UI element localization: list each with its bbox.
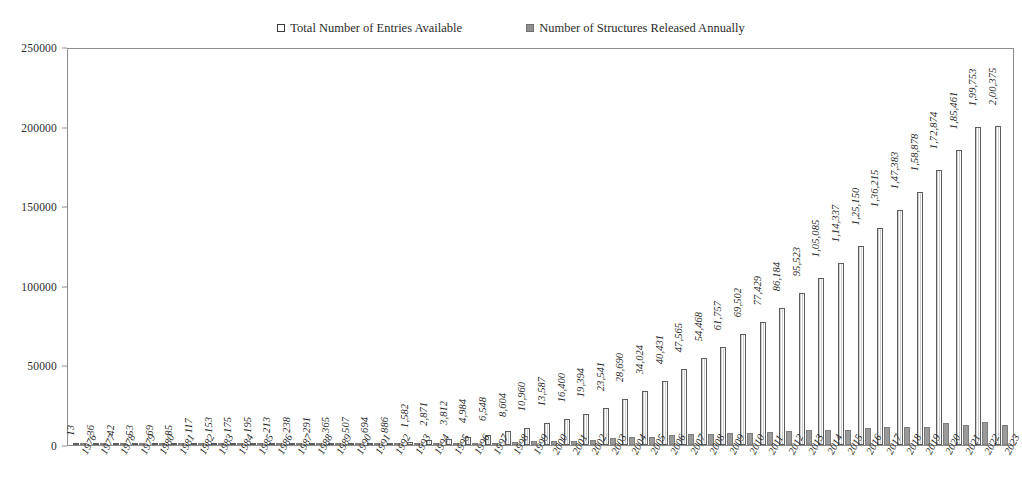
x-axis-tick: 1983 — [206, 447, 226, 490]
bar-group: 507 — [345, 49, 365, 445]
bar-group: 69,502 — [737, 49, 757, 445]
x-axis-tick: 2017 — [874, 447, 894, 490]
bar-total-entries: 1,58,878 — [917, 192, 923, 445]
x-axis-tick: 1976 — [69, 447, 89, 490]
bar-group: 28,690 — [619, 49, 639, 445]
bar-group: 19,394 — [580, 49, 600, 445]
legend-label-total: Total Number of Entries Available — [290, 21, 462, 36]
bar-group: 195 — [246, 49, 266, 445]
legend-swatch-annual-icon — [526, 24, 534, 32]
bar-group: 34,024 — [639, 49, 659, 445]
bar-group: 213 — [266, 49, 286, 445]
bar-group: 86,184 — [776, 49, 796, 445]
x-axis-tick: 1996 — [462, 447, 482, 490]
bar-group: 40,431 — [658, 49, 678, 445]
x-axis-tick: 1998 — [501, 447, 521, 490]
bar-group: 1,14,337 — [835, 49, 855, 445]
x-axis-tick: 2004 — [619, 447, 639, 490]
bar-total-entries: 1,47,383 — [897, 210, 903, 445]
bar-group: 694 — [364, 49, 384, 445]
x-axis-tick: 2015 — [835, 447, 855, 490]
bar-total-entries: 1,05,085 — [818, 278, 824, 445]
bar-total-entries: 1,36,215 — [877, 228, 883, 445]
x-axis-tick: 2001 — [560, 447, 580, 490]
x-axis-tick: 2022 — [972, 447, 992, 490]
y-axis-tick-label: 200000 — [21, 122, 57, 134]
bar-group: 291 — [305, 49, 325, 445]
x-axis-tick: 2014 — [815, 447, 835, 490]
bar-group: 1,99,753 — [972, 49, 992, 445]
x-axis-tick: 1994 — [423, 447, 443, 490]
bar-group: 1,36,215 — [874, 49, 894, 445]
bar-total-entries: 95,523 — [799, 293, 805, 445]
x-axis-tick: 2012 — [776, 447, 796, 490]
bar-group: 886 — [384, 49, 404, 445]
x-axis: 1976197719781979198019811982198319841985… — [67, 447, 1014, 490]
bar-group: 6,548 — [482, 49, 502, 445]
x-axis-tick: 1990 — [344, 447, 364, 490]
bar-group: 8,604 — [501, 49, 521, 445]
x-axis-tick: 1997 — [481, 447, 501, 490]
bar-group: 1,85,461 — [952, 49, 972, 445]
bar-group: 61,757 — [717, 49, 737, 445]
x-axis-tick: 1978 — [108, 447, 128, 490]
bar-total-entries: 77,429 — [760, 322, 766, 445]
x-axis-tick: 2021 — [953, 447, 973, 490]
y-axis-tick-label: 150000 — [21, 201, 57, 213]
bar-group: 23,541 — [599, 49, 619, 445]
x-axis-tick: 2003 — [599, 447, 619, 490]
x-axis-tick: 1995 — [442, 447, 462, 490]
legend-label-annual: Number of Structures Released Annually — [539, 21, 745, 36]
x-axis-tick: 1985 — [246, 447, 266, 490]
bar-group: 54,468 — [698, 49, 718, 445]
bar-group: 1,05,085 — [815, 49, 835, 445]
x-axis-tick: 2020 — [933, 447, 953, 490]
y-axis-tick-label: 50000 — [27, 360, 57, 372]
chart-figure: Total Number of Entries Available Number… — [0, 0, 1022, 490]
bar-group: 4,984 — [462, 49, 482, 445]
bar-total-entries: 1,99,753 — [975, 127, 981, 445]
plot-area: 1336425369851171531751952132382913655076… — [67, 48, 1014, 446]
bar-total-entries: 13 — [73, 443, 79, 445]
bar-group: 153 — [207, 49, 227, 445]
x-axis-tick: 2023 — [992, 447, 1012, 490]
x-axis-tick: 1999 — [521, 447, 541, 490]
bar-group: 1,47,383 — [894, 49, 914, 445]
x-axis-tick: 2005 — [639, 447, 659, 490]
x-axis-tick: 2011 — [756, 447, 776, 490]
x-axis-tick: 1982 — [187, 447, 207, 490]
x-axis-tick: 1984 — [226, 447, 246, 490]
x-axis-tick: 2000 — [540, 447, 560, 490]
x-axis-tick: 1989 — [324, 447, 344, 490]
bar-group: 3,812 — [443, 49, 463, 445]
bar-group: 1,25,150 — [854, 49, 874, 445]
bar-total-entries: 1,85,461 — [956, 150, 962, 445]
bar-group: 36 — [90, 49, 110, 445]
y-axis: 050000100000150000200000250000 — [0, 48, 63, 446]
x-axis-tick: 2002 — [580, 447, 600, 490]
x-axis-tick: 1993 — [403, 447, 423, 490]
bar-group: 117 — [188, 49, 208, 445]
bar-group: 1,58,878 — [913, 49, 933, 445]
x-axis-tick: 1987 — [285, 447, 305, 490]
x-axis-tick: 2006 — [658, 447, 678, 490]
bar-total-entries: 1,72,874 — [936, 170, 942, 445]
bar-total-entries: 69,502 — [740, 334, 746, 445]
x-axis-tick: 1988 — [305, 447, 325, 490]
legend-entry-total: Total Number of Entries Available — [277, 21, 462, 36]
bar-group: 13 — [70, 49, 90, 445]
bar-group: 175 — [227, 49, 247, 445]
bar-group: 2,871 — [423, 49, 443, 445]
x-axis-tick: 2016 — [855, 447, 875, 490]
x-axis-tick: 1992 — [383, 447, 403, 490]
bar-group: 365 — [325, 49, 345, 445]
bar-group: 77,429 — [756, 49, 776, 445]
bar-group: 16,400 — [560, 49, 580, 445]
bar-group: 2,00,375 — [992, 49, 1012, 445]
bar-total-entries: 61,757 — [720, 347, 726, 445]
bars-layer: 1336425369851171531751952132382913655076… — [68, 49, 1013, 445]
x-axis-tick: 2009 — [717, 447, 737, 490]
legend-swatch-total-icon — [277, 24, 285, 32]
bar-group: 69 — [148, 49, 168, 445]
legend-entry-annual: Number of Structures Released Annually — [526, 21, 745, 36]
